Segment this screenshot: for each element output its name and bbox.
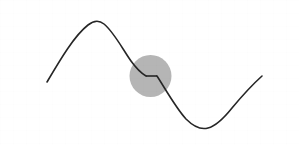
- figure-container: [0, 0, 299, 145]
- curve-figure-svg: [0, 0, 299, 145]
